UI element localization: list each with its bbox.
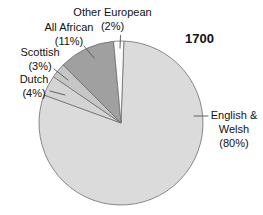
label-english-welsh: English & Welsh (80%): [205, 108, 263, 150]
label-scottish: Scottish (3%): [0, 46, 80, 73]
pie-chart-figure: Other European (2%) All African (11%) Sc…: [0, 0, 263, 215]
label-all-african: All African (11%): [29, 21, 109, 48]
label-english-welsh-pct: (80%): [205, 136, 263, 150]
label-dutch-name: Dutch: [1, 73, 67, 87]
label-scottish-name: Scottish: [0, 46, 80, 60]
label-dutch-pct: (4%): [1, 87, 67, 101]
year-label: 1700: [183, 31, 216, 46]
leader-line-other-european: [120, 36, 121, 49]
label-scottish-pct: (3%): [0, 60, 80, 74]
label-dutch: Dutch (4%): [1, 73, 67, 100]
label-english-welsh-name1: English &: [205, 108, 263, 122]
label-other-european-name: Other European: [62, 6, 163, 20]
label-english-welsh-name2: Welsh: [205, 122, 263, 136]
label-all-african-name: All African: [29, 21, 109, 35]
